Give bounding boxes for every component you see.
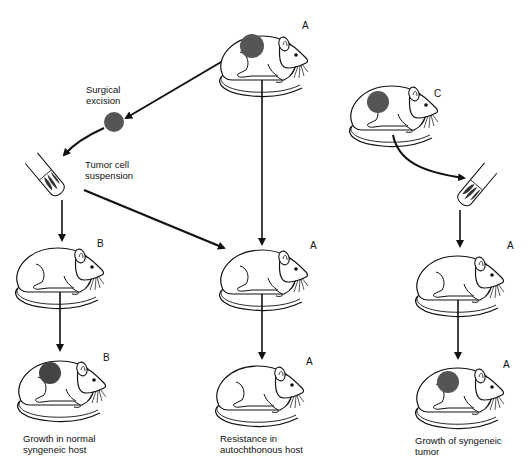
label-tumor-cell-suspension: Tumor cell suspension (85, 159, 133, 181)
tube-left (25, 153, 67, 199)
arrow-to-tube-left (64, 128, 104, 155)
tube-right (455, 163, 497, 209)
tag-right-bottom-a: A (503, 359, 510, 370)
tumor-icon (437, 371, 459, 393)
tumor-icon (367, 91, 389, 113)
mouse-b-bottom (18, 361, 106, 422)
label-surgical-excision: Surgical excision (86, 84, 120, 106)
tumor-icon (240, 34, 264, 58)
caption-right: Growth of syngeneic tumor (415, 435, 502, 457)
tag-left-bottom-b: B (103, 352, 110, 363)
mouse-a-top (220, 34, 308, 97)
tag-middle-bottom-a: A (306, 356, 313, 367)
caption-left: Growth in normal syngeneic host (23, 433, 95, 455)
mouse-a-bottom (216, 366, 304, 427)
tag-left-mid-b: B (97, 238, 104, 249)
arrow-tube-to-mouse-a-mid (84, 190, 224, 248)
mouse-a-right-bottom (416, 368, 504, 429)
tumor-icon (39, 362, 61, 384)
caption-middle: Resistance in autochthonous host (220, 433, 303, 455)
mouse-a-mid (220, 250, 308, 311)
tag-right-top-c: C (434, 88, 441, 99)
excised-tumor (104, 112, 124, 132)
tag-middle-mid-a: A (310, 240, 317, 251)
tag-top-a: A (302, 20, 309, 31)
tag-right-mid-a: A (507, 240, 514, 251)
diagram-canvas (0, 0, 530, 464)
mouse-a-right-mid (416, 256, 504, 317)
